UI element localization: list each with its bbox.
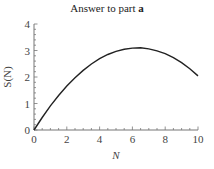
tick-labels: 024681001234 — [25, 18, 205, 145]
axes — [34, 24, 198, 130]
x-tick-label: 10 — [193, 133, 205, 145]
x-tick-label: 4 — [97, 133, 103, 145]
axis-ticks — [34, 24, 198, 130]
y-tick-label: 3 — [25, 45, 31, 57]
x-tick-label: 6 — [130, 133, 136, 145]
y-tick-label: 0 — [25, 124, 31, 136]
x-tick-label: 2 — [64, 133, 70, 145]
x-axis-label: N — [111, 149, 120, 161]
s-of-n-curve — [34, 48, 198, 130]
x-tick-label: 8 — [162, 133, 168, 145]
y-tick-label: 1 — [25, 98, 31, 110]
y-tick-label: 4 — [25, 18, 31, 30]
y-axis-label: S(N) — [1, 66, 14, 88]
line-chart: 024681001234 N S(N) — [0, 0, 214, 169]
x-tick-label: 0 — [31, 133, 37, 145]
y-tick-label: 2 — [25, 71, 31, 83]
